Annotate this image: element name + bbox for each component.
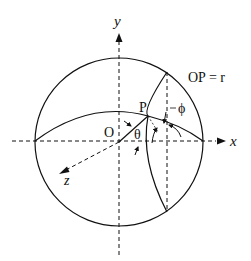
z-axis-label: z	[63, 173, 70, 188]
z-axis	[64, 142, 119, 171]
meridian-arc	[146, 72, 167, 212]
y-axis-arrow-icon	[116, 33, 123, 42]
phi-label: ϕ	[178, 101, 185, 116]
sphere-coordinate-diagram: y x z O P θ ϕ OP = r	[0, 0, 251, 261]
radius-equation-label: OP = r	[188, 70, 225, 85]
x-axis-label: x	[229, 133, 237, 149]
x-axis-arrow-icon	[217, 138, 226, 145]
origin-label: O	[104, 125, 114, 140]
theta-arrow-lower-icon	[135, 147, 138, 155]
theta-arrow-upper-icon	[124, 121, 131, 126]
y-axis-label: y	[112, 13, 121, 29]
point-label: P	[139, 100, 147, 115]
theta-label: θ	[134, 127, 141, 142]
